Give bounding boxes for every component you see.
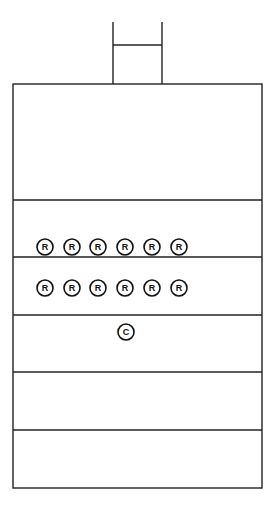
r-marker: R [117,239,133,255]
svg-text:R: R [42,242,49,252]
svg-text:R: R [69,283,76,293]
diagram-canvas: R R R R R R R R R R R R C [0,0,277,505]
r-marker: R [144,239,160,255]
c-marker: C [118,324,134,340]
r-marker: R [117,280,133,296]
svg-text:R: R [176,283,183,293]
r-marker: R [37,280,53,296]
r-marker: R [171,280,187,296]
r-marker: R [90,239,106,255]
svg-text:R: R [42,283,49,293]
section-dividers [13,200,262,430]
svg-text:R: R [95,283,102,293]
r-marker: R [64,280,80,296]
r-marker: R [64,239,80,255]
svg-text:C: C [123,327,130,337]
svg-text:R: R [149,283,156,293]
r-marker: R [90,280,106,296]
svg-text:R: R [122,242,129,252]
svg-text:R: R [149,242,156,252]
r-marker: R [37,239,53,255]
top-stack [113,22,162,84]
svg-text:R: R [69,242,76,252]
marker-row-1: R R R R R R [37,239,187,255]
svg-text:R: R [95,242,102,252]
svg-text:R: R [122,283,129,293]
r-marker: R [144,280,160,296]
marker-row-2: R R R R R R [37,280,187,296]
r-marker: R [171,239,187,255]
svg-text:R: R [176,242,183,252]
